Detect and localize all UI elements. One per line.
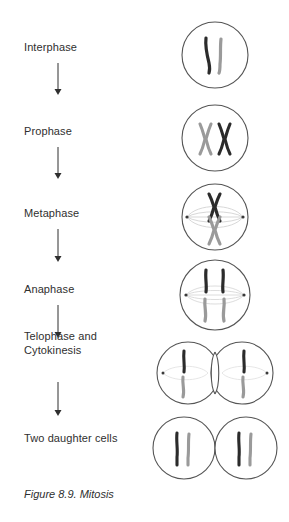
cleavage-furrow-mask: [211, 352, 219, 394]
spindle-fibers-telophase: [163, 366, 267, 380]
chromosome-dark-daughter-left: [177, 433, 178, 465]
chromosome-dark-daughter-right: [239, 433, 240, 465]
centrosome-left-metaphase: [185, 215, 188, 218]
cell-membrane-metaphase: [182, 184, 248, 250]
cell-membrane-anaphase: [180, 260, 250, 330]
chromatid-light-right-anaphase: [223, 299, 224, 321]
cell-daughter-left: [153, 417, 215, 479]
cell-membrane-telophase-left: [157, 342, 219, 404]
cell-membrane-interphase: [182, 22, 248, 88]
chromosome-light-daughter-left: [188, 434, 189, 465]
cell-membrane-telophase-right: [211, 342, 273, 404]
chromosome-dark-telophase-left: [184, 351, 185, 372]
chromosome-light-telophase-right: [243, 377, 244, 397]
stage-label-two-daughter-cells: Two daughter cells: [24, 431, 118, 445]
cell-membrane-telophase-fill: [167, 342, 263, 404]
spindle-fibers-anaphase: [186, 286, 244, 304]
chromosome-light-prophase: [200, 124, 211, 154]
chromosome-dark-prophase: [219, 124, 230, 154]
cell-membrane-prophase: [182, 105, 248, 171]
arrow-telophase-daughter: [55, 382, 62, 416]
chromatid-dark-right-anaphase: [223, 270, 224, 292]
centrosome-left-anaphase: [184, 293, 187, 296]
stage-label-telophase-cytokinesis: Telophase and Cytokinesis: [24, 329, 97, 357]
cleavage-furrow-left: [211, 352, 215, 394]
stage-label-prophase: Prophase: [24, 124, 72, 138]
chromosome-dark-telophase-right: [244, 351, 245, 372]
cell-anaphase: [180, 260, 250, 330]
centrosome-left-telophase: [162, 372, 165, 375]
stage-label-interphase: Interphase: [24, 40, 77, 54]
chromosome-dark-metaphase: [209, 194, 220, 221]
chromosome-light-metaphase: [209, 217, 220, 244]
stage-label-metaphase: Metaphase: [24, 206, 79, 220]
centrosome-right-telophase: [266, 372, 269, 375]
spindle-fibers-metaphase: [187, 207, 243, 228]
arrow-prophase-metaphase: [55, 147, 62, 179]
cell-telophase-cytokinesis: [157, 342, 273, 404]
chromosome-dark-interphase: [206, 38, 210, 73]
cell-metaphase: [182, 184, 248, 250]
cell-interphase: [182, 22, 248, 88]
cell-membrane-daughter-left: [153, 417, 215, 479]
centrosome-right-anaphase: [242, 293, 245, 296]
cell-prophase: [182, 105, 248, 171]
chromatid-dark-left-anaphase: [206, 270, 207, 292]
cleavage-furrow-right: [215, 352, 219, 394]
cell-membrane-daughter-right: [215, 417, 277, 479]
figure-caption: Figure 8.9. Mitosis: [24, 488, 114, 500]
chromatid-light-left-anaphase: [205, 299, 206, 321]
cell-daughter-right: [215, 417, 277, 479]
stage-label-anaphase: Anaphase: [24, 282, 74, 296]
centrosome-right-metaphase: [241, 215, 244, 218]
arrow-interphase-prophase: [55, 63, 62, 95]
chromosome-light-telophase-left: [183, 377, 184, 397]
chromosome-light-daughter-right: [250, 434, 251, 465]
chromosome-light-interphase: [219, 39, 221, 73]
arrow-metaphase-anaphase: [55, 229, 62, 262]
mitosis-figure: Interphase Prophase Metaphase Anaphase T…: [0, 0, 289, 522]
